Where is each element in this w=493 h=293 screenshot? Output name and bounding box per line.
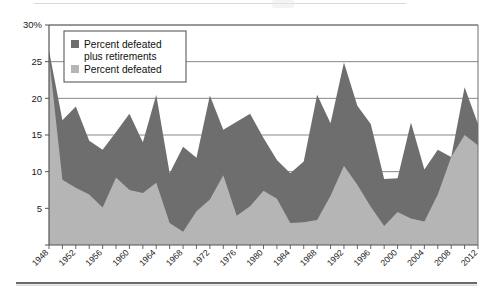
y-tick-label-20: 20 [31,93,42,104]
legend-swatch-percent-defeated [71,65,79,73]
bottom-rule [0,277,493,293]
y-tick-label-5: 5 [37,203,42,214]
legend-swatch-percent-defeated-plus-retirements [71,40,79,48]
legend-label-line1-series1: Percent defeated [84,39,162,50]
x-tick-label-1992: 1992 [325,247,346,268]
x-tick-label-2000: 2000 [378,247,399,268]
chart-legend: Percent defeated plus retirements Percen… [64,31,186,82]
legend-label-line1-series2: Percent defeated [84,64,162,75]
x-tick-marks [49,245,478,249]
x-tick-label-1968: 1968 [164,247,185,268]
x-tick-label-2004: 2004 [405,247,426,268]
chart-figure: 51015202530% 194819521956196019641968197… [0,0,493,293]
x-tick-label-1952: 1952 [57,247,78,268]
x-tick-label-1980: 1980 [244,247,265,268]
legend-label-line2-series1: plus retirements [84,51,156,62]
y-tick-label-15: 15 [31,129,42,140]
x-tick-label-1976: 1976 [218,247,239,268]
y-tick-label-10: 10 [31,166,42,177]
y-tick-labels: 51015202530% [23,19,43,213]
x-tick-label-1956: 1956 [83,247,104,268]
y-tick-label-25: 25 [31,56,42,67]
x-tick-label-2008: 2008 [432,247,453,268]
y-tick-label-30: 30% [23,19,43,30]
x-tick-label-1984: 1984 [271,247,292,268]
x-tick-label-1948: 1948 [30,247,51,268]
x-tick-label-2012: 2012 [459,247,480,268]
x-tick-label-1972: 1972 [191,247,212,268]
x-tick-labels: 1948195219561960196419681972197619801984… [30,247,480,268]
x-tick-label-1996: 1996 [352,247,373,268]
area-chart: 51015202530% 194819521956196019641968197… [0,0,493,293]
x-tick-label-1964: 1964 [137,247,158,268]
x-tick-label-1988: 1988 [298,247,319,268]
x-tick-label-1960: 1960 [110,247,131,268]
